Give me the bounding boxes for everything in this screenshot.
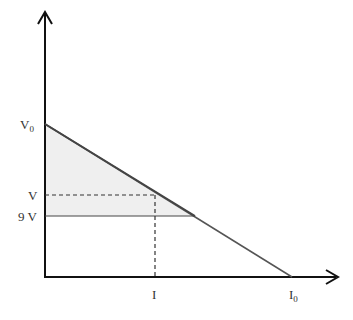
label-9v: 9 V — [18, 209, 38, 224]
label-v0: V0 — [20, 117, 34, 134]
diagram-canvas: V0 V 9 V I I0 — [0, 0, 353, 320]
label-i: I — [152, 287, 156, 302]
label-i0: I0 — [289, 287, 298, 304]
label-v: V — [28, 188, 38, 203]
vi-diagram: V0 V 9 V I I0 — [0, 0, 353, 320]
